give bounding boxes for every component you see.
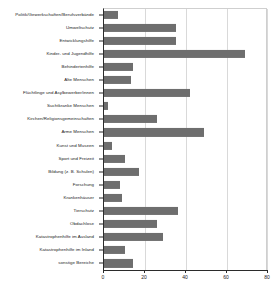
bar <box>104 259 133 267</box>
y-axis-tick <box>99 106 103 107</box>
bar-row: Tierschutz <box>0 205 274 218</box>
bar-row: Kunst und Museen <box>0 139 274 152</box>
bar <box>104 246 125 254</box>
bar-row: Obdachlose <box>0 218 274 231</box>
bar <box>104 24 176 32</box>
category-label: sonstige Bereiche <box>0 261 94 266</box>
bar-row: Katastrophenhilfe im Ausland <box>0 231 274 244</box>
bar <box>104 10 118 18</box>
y-axis-tick <box>99 66 103 67</box>
y-axis-tick <box>99 80 103 81</box>
bar-row: Bildung (z. B. Schulen) <box>0 165 274 178</box>
category-label: Alte Menschen <box>0 77 94 82</box>
bar <box>104 207 178 215</box>
category-label: Kunst und Museen <box>0 143 94 148</box>
x-axis-tick <box>226 270 227 273</box>
y-axis-tick <box>99 158 103 159</box>
category-label: Sport und Freizeit <box>0 156 94 161</box>
bar-row: Kirchen/Religionsgemeinschaften <box>0 113 274 126</box>
category-label: Katastrophenhilfe im Ausland <box>0 235 94 240</box>
x-axis-ticks: 020406080 <box>0 270 274 287</box>
bar <box>104 115 157 123</box>
x-axis-tick-label: 40 <box>182 274 188 280</box>
category-label: Flüchtlinge und Asylbewerber/innen <box>0 90 94 95</box>
y-axis-tick <box>99 119 103 120</box>
bar <box>104 233 163 241</box>
y-axis-tick <box>99 93 103 94</box>
bar <box>104 50 245 58</box>
bar <box>104 141 112 149</box>
category-label: Tierschutz <box>0 208 94 213</box>
category-label: Bildung (z. B. Schulen) <box>0 169 94 174</box>
category-label: Forschung <box>0 182 94 187</box>
bar <box>104 76 131 84</box>
bar <box>104 89 190 97</box>
bar <box>104 168 139 176</box>
category-label: Politik/Gewerkschaften/Berufsverbände <box>0 12 94 17</box>
bar-row: Behindertenhilfe <box>0 60 274 73</box>
x-axis-tick <box>144 270 145 273</box>
x-axis-tick-label: 60 <box>223 274 229 280</box>
y-axis-tick <box>99 27 103 28</box>
x-axis-tick-label: 20 <box>141 274 147 280</box>
y-axis-tick <box>99 171 103 172</box>
category-label: Suchtkranke Menschen <box>0 104 94 109</box>
y-axis-tick <box>99 14 103 15</box>
bar-row: sonstige Bereiche <box>0 257 274 270</box>
bar <box>104 194 122 202</box>
y-axis-tick <box>99 197 103 198</box>
x-axis-tick <box>103 270 104 273</box>
x-axis-tick-label: 80 <box>264 274 270 280</box>
category-label: Obdachlose <box>0 221 94 226</box>
y-axis-tick <box>99 224 103 225</box>
y-axis-tick <box>99 145 103 146</box>
category-label: Behindertenhilfe <box>0 64 94 69</box>
y-axis-tick <box>99 40 103 41</box>
category-label: Umweltschutz <box>0 25 94 30</box>
bar-row: Suchtkranke Menschen <box>0 100 274 113</box>
bar-row: Kinder- und Jugendhilfe <box>0 47 274 60</box>
x-axis-tick-label: 0 <box>102 274 105 280</box>
y-axis-tick <box>99 53 103 54</box>
y-axis-tick <box>99 211 103 212</box>
category-label: Krankenhäuser <box>0 195 94 200</box>
bar-row: Sport und Freizeit <box>0 152 274 165</box>
bar <box>104 220 157 228</box>
bar-row: Arme Menschen <box>0 126 274 139</box>
x-axis-tick <box>185 270 186 273</box>
bar-rows: Politik/Gewerkschaften/BerufsverbändeUmw… <box>0 8 274 270</box>
category-label: Arme Menschen <box>0 130 94 135</box>
x-axis-tick <box>267 270 268 273</box>
bar-row: Entwicklungshilfe <box>0 34 274 47</box>
bar <box>104 128 204 136</box>
category-label: Kirchen/Religionsgemeinschaften <box>0 117 94 122</box>
y-axis-tick <box>99 132 103 133</box>
bar-row: Katastrophenhilfe im Inland <box>0 244 274 257</box>
category-label: Katastrophenhilfe im Inland <box>0 248 94 253</box>
category-label: Kinder- und Jugendhilfe <box>0 51 94 56</box>
bar <box>104 181 120 189</box>
bar-row: Politik/Gewerkschaften/Berufsverbände <box>0 8 274 21</box>
category-label: Entwicklungshilfe <box>0 38 94 43</box>
bar-row: Umweltschutz <box>0 21 274 34</box>
bar <box>104 63 133 71</box>
y-axis-tick <box>99 237 103 238</box>
y-axis-tick <box>99 250 103 251</box>
bar <box>104 37 176 45</box>
bar-row: Alte Menschen <box>0 74 274 87</box>
bar <box>104 155 125 163</box>
bar <box>104 102 108 110</box>
bar-row: Flüchtlinge und Asylbewerber/innen <box>0 87 274 100</box>
bar-row: Krankenhäuser <box>0 191 274 204</box>
bar-row: Forschung <box>0 178 274 191</box>
y-axis-tick <box>99 184 103 185</box>
bar-chart: Politik/Gewerkschaften/BerufsverbändeUmw… <box>0 0 274 287</box>
y-axis-tick <box>99 263 103 264</box>
